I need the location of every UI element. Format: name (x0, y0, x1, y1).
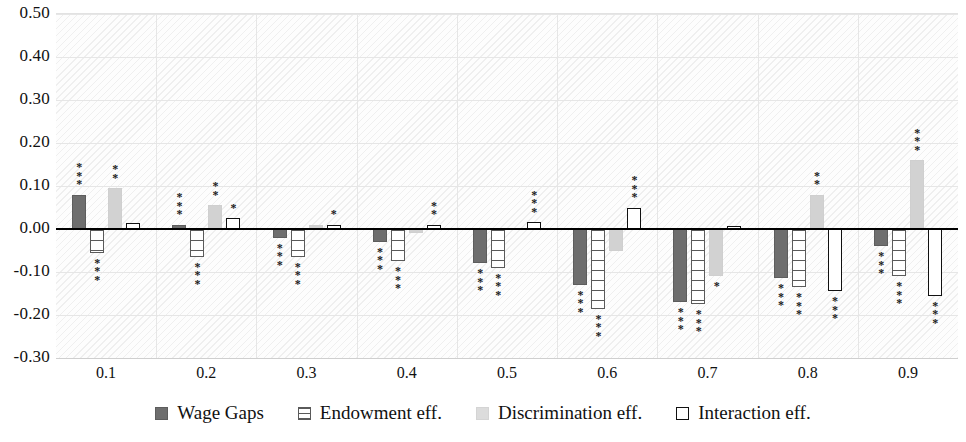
significance-stars: * * * (696, 310, 702, 336)
bar-endow-0_7 (691, 229, 705, 304)
bar-wage-0_4 (373, 229, 387, 242)
y-axis-tick-label: -0.10 (14, 261, 50, 281)
significance-stars: * * * (631, 176, 637, 202)
significance-stars: * * * (796, 293, 802, 319)
significance-stars: * * * (395, 267, 401, 293)
zero-line (56, 228, 958, 230)
significance-stars: * * * (595, 315, 601, 341)
x-axis-tick-label: 0.6 (597, 364, 617, 382)
legend-swatch-wage-icon (155, 407, 168, 420)
significance-stars: * * * (896, 282, 902, 308)
y-axis-tick-label: 0.30 (19, 89, 50, 109)
y-axis-tick-label: 0.00 (19, 218, 50, 238)
legend-swatch-interact-icon (676, 407, 689, 420)
y-axis-tick-label: 0.50 (19, 3, 50, 23)
significance-stars: * * * (878, 252, 884, 278)
bar-wage-0_5 (473, 229, 487, 263)
y-axis: 0.500.400.300.200.100.00-0.10-0.20-0.30 (0, 0, 56, 370)
bar-discrim-0_6 (609, 229, 623, 251)
bar-discrim-0_2 (208, 205, 222, 229)
significance-stars: * * * (495, 274, 501, 300)
significance-stars: * * * (76, 163, 82, 189)
bar-interact-0_8 (828, 229, 842, 291)
y-gridline (56, 57, 958, 58)
quantile-decomposition-chart: 0.500.400.300.200.100.00-0.10-0.20-0.30 … (0, 0, 966, 442)
x-axis-tick-label: 0.2 (196, 364, 216, 382)
legend-label: Endowment eff. (320, 402, 442, 424)
x-axis-tick-label: 0.5 (497, 364, 517, 382)
legend-label: Wage Gaps (177, 402, 264, 424)
bar-discrim-0_1 (108, 188, 122, 229)
bar-interact-0_9 (928, 229, 942, 296)
significance-stars: * (714, 282, 720, 291)
x-axis: 0.10.20.30.40.50.60.70.80.9 (56, 358, 958, 388)
significance-stars: * * * (531, 191, 537, 217)
chart-legend: Wage GapsEndowment eff.Discrimination ef… (0, 402, 966, 424)
x-gridline (557, 14, 558, 358)
significance-stars: * * (814, 172, 820, 189)
bar-discrim-0_8 (810, 195, 824, 229)
significance-stars: * * * (295, 263, 301, 289)
x-gridline (758, 14, 759, 358)
bar-wage-0_6 (573, 229, 587, 285)
x-axis-tick-label: 0.9 (898, 364, 918, 382)
y-gridline (56, 315, 958, 316)
x-gridline (457, 14, 458, 358)
x-axis-tick-label: 0.1 (96, 364, 116, 382)
legend-item-discrim[interactable]: Discrimination eff. (476, 402, 642, 424)
significance-stars: * * * (914, 129, 920, 155)
significance-stars: * * * (94, 259, 100, 285)
x-axis-tick-label: 0.4 (397, 364, 417, 382)
x-gridline (357, 14, 358, 358)
significance-stars: * * * (177, 193, 183, 219)
significance-stars: * * (112, 165, 118, 182)
bar-endow-0_5 (491, 229, 505, 268)
legend-item-interact[interactable]: Interaction eff. (676, 402, 811, 424)
x-axis-tick-label: 0.7 (697, 364, 717, 382)
x-gridline (858, 14, 859, 358)
significance-stars: * * * (477, 269, 483, 295)
plot-area: * * ** * ** ** * ** * ** *** * ** * *** … (56, 13, 958, 359)
significance-stars: * * * (678, 308, 684, 334)
y-gridline (56, 14, 958, 15)
bar-interact-0_6 (627, 208, 641, 230)
significance-stars: * * * (377, 248, 383, 274)
y-axis-tick-label: 0.40 (19, 46, 50, 66)
bar-wage-0_8 (774, 229, 788, 278)
y-axis-tick-label: 0.10 (19, 175, 50, 195)
significance-stars: * * * (277, 244, 283, 270)
x-gridline (156, 14, 157, 358)
legend-swatch-discrim-icon (476, 407, 489, 420)
significance-stars: * (331, 210, 337, 219)
significance-stars: * * * (577, 291, 583, 317)
y-axis-tick-label: -0.30 (14, 347, 50, 367)
x-axis-tick-label: 0.8 (798, 364, 818, 382)
bar-wage-0_7 (673, 229, 687, 302)
significance-stars: * * * (832, 297, 838, 323)
bar-endow-0_4 (391, 229, 405, 261)
x-axis-tick-label: 0.3 (297, 364, 317, 382)
bar-wage-0_3 (273, 229, 287, 238)
bar-endow-0_1 (90, 229, 104, 253)
legend-swatch-endow-icon (298, 407, 311, 420)
significance-stars: * * * (195, 263, 201, 289)
y-axis-tick-label: -0.20 (14, 304, 50, 324)
y-gridline (56, 272, 958, 273)
bar-discrim-0_7 (709, 229, 723, 276)
y-gridline (56, 186, 958, 187)
y-axis-tick-label: 0.20 (19, 132, 50, 152)
bar-endow-0_2 (190, 229, 204, 257)
bar-wage-0_9 (874, 229, 888, 246)
bar-endow-0_8 (792, 229, 806, 287)
significance-stars: * * * (932, 302, 938, 328)
bar-endow-0_3 (291, 229, 305, 257)
x-gridline (256, 14, 257, 358)
legend-label: Interaction eff. (698, 402, 811, 424)
legend-item-endow[interactable]: Endowment eff. (298, 402, 442, 424)
significance-stars: * * (431, 202, 437, 219)
bar-discrim-0_9 (910, 160, 924, 229)
bar-endow-0_9 (892, 229, 906, 276)
bar-endow-0_6 (591, 229, 605, 309)
legend-item-wage[interactable]: Wage Gaps (155, 402, 264, 424)
significance-stars: * * (213, 182, 219, 199)
